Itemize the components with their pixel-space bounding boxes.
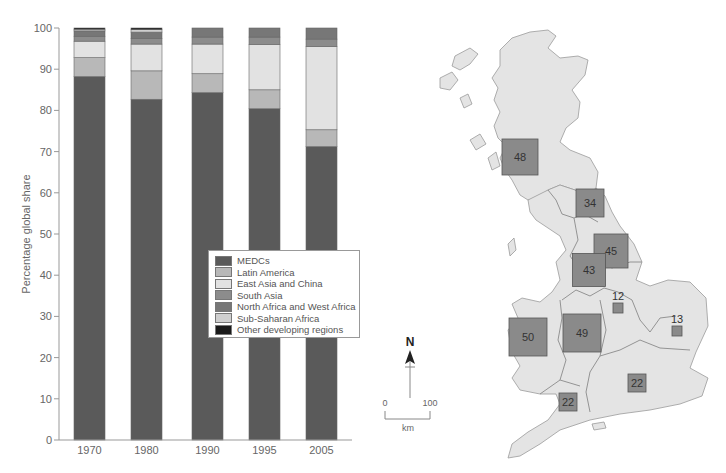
north-arrow: N [405, 335, 415, 398]
chart-canvas: 0102030405060708090100 19701980199019952… [0, 0, 370, 473]
bar-segment [306, 47, 337, 130]
bar-segment [74, 41, 105, 57]
y-tick-label: 100 [34, 22, 52, 34]
legend-swatch [215, 325, 232, 335]
region-value: 12 [612, 290, 624, 302]
x-tick-label: 1980 [134, 444, 158, 456]
x-axis: 19701980199019952005 [59, 440, 352, 456]
legend-label: North Africa and West Africa [237, 301, 356, 312]
bar-segment [249, 90, 280, 109]
legend-swatch [215, 279, 232, 289]
bar-segment [74, 58, 105, 77]
scale-bar: 0 100 km [382, 398, 437, 433]
y-tick-label: 30 [40, 310, 52, 322]
region-square: 49 [563, 314, 601, 352]
y-tick-label: 0 [46, 434, 52, 446]
y-axis-title: Percentage global share [20, 174, 32, 293]
bar-segment [306, 39, 337, 46]
legend-item: Other developing regions [215, 324, 353, 336]
region-square: 22 [559, 393, 577, 411]
bar-segment [192, 74, 223, 93]
region-value: 34 [584, 197, 596, 209]
region-value: 45 [605, 245, 617, 257]
region-square: 34 [576, 189, 604, 217]
region-value: 48 [514, 151, 526, 163]
y-tick-label: 90 [40, 63, 52, 75]
region-square: 12 [612, 290, 624, 313]
legend-swatch [215, 290, 232, 300]
x-tick-label: 1970 [77, 444, 101, 456]
bar-segment [306, 28, 337, 39]
bar-1990 [192, 28, 223, 440]
bar-segment [306, 130, 337, 147]
scale-unit: km [402, 423, 414, 433]
y-tick-label: 60 [40, 187, 52, 199]
scale-max: 100 [422, 398, 437, 408]
legend-swatch [215, 256, 232, 266]
region-value: 22 [631, 377, 643, 389]
region-value: 13 [671, 313, 683, 325]
region-value: 50 [522, 331, 534, 343]
legend-item: Sub-Saharan Africa [215, 313, 353, 325]
legend-label: Other developing regions [237, 324, 343, 335]
legend-item: MEDCs [215, 255, 353, 267]
bar-segment [192, 28, 223, 37]
great-britain-map: 48344543121350492222 N 0 100 km [365, 0, 726, 473]
region-square: 48 [502, 139, 538, 175]
bar-segment [131, 99, 162, 440]
legend-label: MEDCs [237, 255, 270, 266]
bar-segment [131, 44, 162, 71]
y-tick-label: 20 [40, 352, 52, 364]
y-tick-label: 40 [40, 269, 52, 281]
legend-swatch [215, 302, 232, 312]
legend-swatch [215, 313, 232, 323]
legend-item: Latin America [215, 267, 353, 279]
legend-item: East Asia and China [215, 278, 353, 290]
legend-label: East Asia and China [237, 278, 323, 289]
region-value: 43 [583, 264, 595, 276]
legend-swatch [215, 267, 232, 277]
legend-label: South Asia [237, 290, 282, 301]
bar-segment [131, 32, 162, 38]
north-label: N [406, 335, 415, 349]
region-square: 43 [573, 254, 606, 287]
scale-min: 0 [382, 398, 387, 408]
region-value: 22 [562, 396, 574, 408]
y-tick-label: 50 [40, 228, 52, 240]
x-tick-label: 1995 [252, 444, 276, 456]
bar-segment [131, 28, 162, 30]
stacked-bar-chart: 0102030405060708090100 19701980199019952… [0, 0, 370, 473]
chart-legend: MEDCsLatin AmericaEast Asia and ChinaSou… [208, 250, 360, 338]
legend-label: Latin America [237, 267, 295, 278]
bar-segment [74, 36, 105, 41]
bars [74, 28, 337, 440]
legend-item: South Asia [215, 290, 353, 302]
legend-item: North Africa and West Africa [215, 301, 353, 313]
bar-1995 [249, 28, 280, 440]
region-square: 13 [671, 313, 683, 336]
bar-segment [131, 71, 162, 99]
bar-1980 [131, 28, 162, 440]
bar-segment [249, 44, 280, 89]
y-tick-label: 10 [40, 393, 52, 405]
map-canvas: 48344543121350492222 N 0 100 km [365, 0, 726, 473]
y-tick-label: 70 [40, 146, 52, 158]
bar-2005 [306, 28, 337, 440]
bar-segment [249, 37, 280, 44]
y-tick-label: 80 [40, 104, 52, 116]
region-square: 50 [509, 318, 547, 356]
x-tick-label: 1990 [195, 444, 219, 456]
bar-segment [249, 28, 280, 37]
x-tick-label: 2005 [309, 444, 333, 456]
bar-segment [131, 38, 162, 44]
legend-label: Sub-Saharan Africa [237, 313, 319, 324]
bar-segment [74, 28, 105, 29]
bar-segment [74, 31, 105, 36]
bar-segment [192, 37, 223, 44]
bar-1970 [74, 28, 105, 440]
region-square: 22 [628, 374, 646, 392]
region-value: 49 [576, 327, 588, 339]
bar-segment [131, 30, 162, 32]
bar-segment [192, 44, 223, 74]
bar-segment [74, 77, 105, 440]
